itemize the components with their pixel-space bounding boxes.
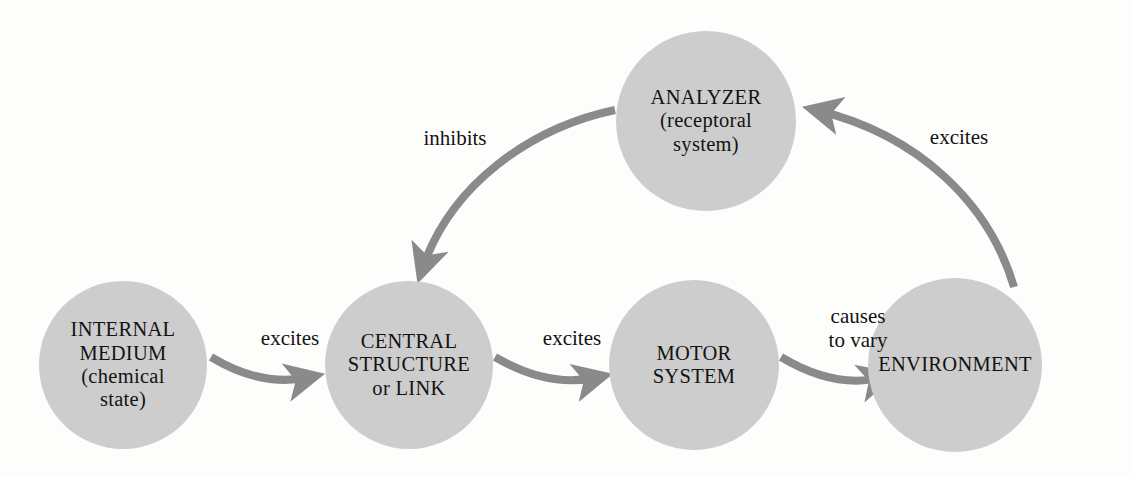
node-analyzer-label: ANALYZER (receptoral system) bbox=[649, 86, 764, 156]
edge-central-to-motor bbox=[495, 357, 599, 380]
node-internal-medium[interactable]: INTERNAL MEDIUM (chemical state) bbox=[39, 281, 207, 449]
node-analyzer[interactable]: ANALYZER (receptoral system) bbox=[616, 31, 796, 211]
edge-label-analyzer-to-central: inhibits bbox=[405, 126, 505, 150]
node-motor-system-label: MOTOR SYSTEM bbox=[651, 342, 738, 389]
edge-label-motor-to-environment: causes to vary bbox=[806, 304, 910, 353]
edge-label-central-to-motor: excites bbox=[522, 326, 622, 350]
diagram-canvas: INTERNAL MEDIUM (chemical state) CENTRAL… bbox=[0, 0, 1131, 477]
edge-internal-to-central bbox=[211, 357, 311, 380]
node-internal-medium-label: INTERNAL MEDIUM (chemical state) bbox=[69, 318, 178, 411]
edge-label-environment-to-analyzer: excites bbox=[909, 125, 1009, 149]
edge-label-internal-to-central: excites bbox=[240, 326, 340, 350]
node-motor-system[interactable]: MOTOR SYSTEM bbox=[609, 280, 779, 450]
node-central-structure-label: CENTRAL STRUCTURE or LINK bbox=[346, 330, 472, 400]
node-environment-label: ENVIRONMENT bbox=[876, 353, 1034, 376]
node-central-structure[interactable]: CENTRAL STRUCTURE or LINK bbox=[325, 281, 493, 449]
